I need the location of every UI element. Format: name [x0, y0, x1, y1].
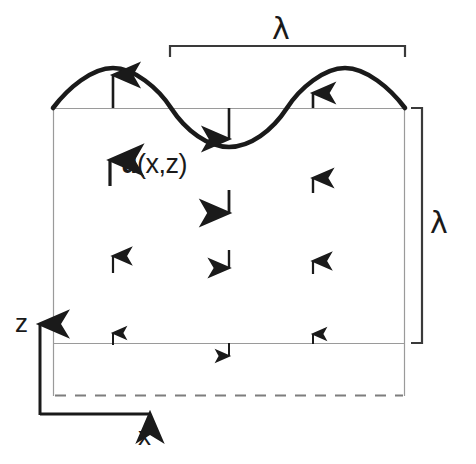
- coordinate-axes: [40, 324, 150, 415]
- x-axis-label: x: [138, 423, 151, 449]
- velocity-field-label: u(x,z): [121, 151, 187, 178]
- surface-vectors: [113, 75, 313, 139]
- z-axis-label: z: [15, 310, 28, 336]
- lambda-vertical-label: λ: [430, 208, 448, 238]
- velocity-field-arguments: (x,z): [137, 149, 187, 179]
- lambda-horizontal-bracket: [170, 46, 405, 57]
- interior-vectors: [113, 178, 313, 356]
- velocity-field-symbol: u: [121, 149, 137, 179]
- lambda-vertical-bracket: [411, 108, 422, 343]
- lambda-horizontal-label: λ: [272, 14, 290, 44]
- wave-diagram-figure: λ λ z x u(x,z): [0, 0, 476, 464]
- diagram-canvas: [0, 0, 476, 464]
